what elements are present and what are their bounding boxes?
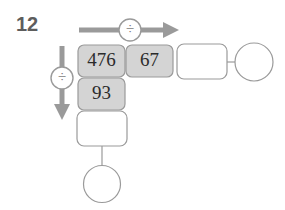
cell-value: 93 bbox=[92, 82, 111, 103]
answer-circle-shape[interactable] bbox=[84, 166, 121, 203]
grid-cell-row1-col3[interactable] bbox=[177, 44, 227, 79]
row-arrow-head-icon bbox=[163, 22, 179, 38]
column-operator-arrow: ÷ bbox=[51, 46, 73, 120]
grid-cell-row3-col1[interactable] bbox=[77, 111, 127, 146]
number-grid-diagram: ÷ ÷ 476 67 bbox=[0, 0, 285, 210]
division-icon: ÷ bbox=[58, 69, 66, 85]
grid-cell-row1-col2[interactable]: 67 bbox=[126, 45, 173, 77]
cell-value: 67 bbox=[140, 49, 159, 70]
worksheet-problem-canvas: 12 ÷ ÷ 476 67 bbox=[0, 0, 285, 210]
division-icon: ÷ bbox=[126, 21, 134, 37]
column-arrow-head-icon bbox=[54, 104, 70, 120]
cell-value: 476 bbox=[87, 49, 116, 70]
answer-circle-shape[interactable] bbox=[235, 43, 273, 81]
column-answer-circle[interactable] bbox=[84, 166, 121, 203]
row-answer-circle[interactable] bbox=[235, 43, 273, 81]
cell-box[interactable] bbox=[77, 111, 127, 146]
row-operator-arrow: ÷ bbox=[79, 19, 179, 41]
grid-cell-row1-col1[interactable]: 476 bbox=[78, 45, 125, 77]
cell-box[interactable] bbox=[177, 44, 227, 79]
grid-cell-row2-col1[interactable]: 93 bbox=[78, 78, 125, 110]
